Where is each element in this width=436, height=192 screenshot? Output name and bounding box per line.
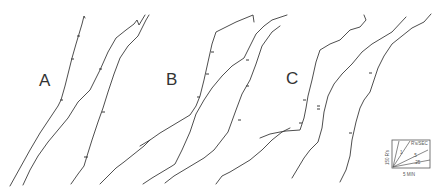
panel-label-a: A bbox=[39, 71, 50, 91]
trace-a1 bbox=[10, 16, 85, 186]
trace-a4 bbox=[100, 140, 150, 184]
trace-c1 bbox=[260, 15, 366, 138]
scale-key: R's/SEC 1 .5 .25 150 R's 5 MIN bbox=[385, 140, 430, 177]
cumulative-record-figure: R's/SEC 1 .5 .25 150 R's 5 MIN bbox=[0, 0, 436, 192]
key-vertical-label: 150 R's bbox=[385, 149, 390, 165]
panel-label-b: B bbox=[166, 70, 177, 90]
key-slope-2: .5 bbox=[413, 153, 417, 158]
panel-c-traces bbox=[260, 14, 431, 182]
panel-a-traces bbox=[10, 15, 150, 186]
trace-b3 bbox=[165, 26, 280, 183]
key-horizontal-label: 5 MIN bbox=[403, 172, 415, 177]
trace-b2 bbox=[143, 15, 287, 184]
key-slope-3: .25 bbox=[414, 160, 421, 165]
panel-b-traces bbox=[140, 15, 290, 184]
panel-label-c: C bbox=[286, 69, 298, 89]
key-rate-label: R's/SEC bbox=[411, 141, 429, 146]
trace-b4 bbox=[216, 128, 290, 184]
trace-a3 bbox=[71, 15, 149, 184]
trace-b1 bbox=[140, 15, 254, 146]
